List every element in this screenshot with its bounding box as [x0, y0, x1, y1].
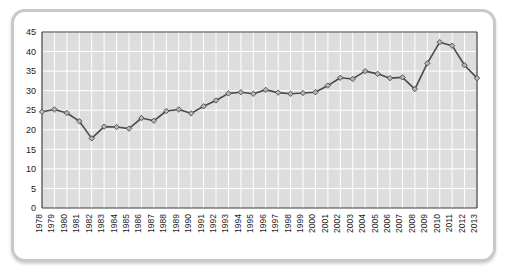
x-tick-label: 1979: [46, 214, 56, 233]
x-tick-label: 2012: [457, 214, 467, 233]
x-tick-label: 1978: [34, 214, 44, 233]
x-tick-label: 2003: [345, 214, 355, 233]
x-tick-label: 1987: [146, 214, 156, 233]
x-tick-label: 1993: [220, 214, 230, 233]
x-tick-label: 1990: [183, 214, 193, 233]
plot-background: [42, 32, 477, 208]
x-tick-label: 1997: [270, 214, 280, 233]
x-tick-label: 2005: [370, 214, 380, 233]
y-tick-label: 45: [26, 27, 36, 37]
x-tick-label: 2001: [320, 214, 330, 233]
x-tick-label: 1986: [133, 214, 143, 233]
x-tick-label: 1995: [245, 214, 255, 233]
y-tick-label: 40: [26, 47, 36, 57]
y-tick-label: 10: [26, 164, 36, 174]
x-tick-label: 1996: [258, 214, 268, 233]
y-tick-label: 30: [26, 86, 36, 96]
chart-svg: 051015202530354045 197819791980198119821…: [0, 0, 511, 279]
x-tick-label: 1980: [59, 214, 69, 233]
x-tick-label: 1981: [71, 214, 81, 233]
y-tick-label: 0: [31, 203, 36, 213]
x-tick-label: 1984: [109, 214, 119, 233]
y-tick-label: 20: [26, 125, 36, 135]
x-tick-label: 2008: [407, 214, 417, 233]
x-tick-label: 1998: [283, 214, 293, 233]
x-tick-label: 1992: [208, 214, 218, 233]
x-tick-label: 2011: [444, 214, 454, 233]
x-tick-label: 2009: [419, 214, 429, 233]
x-tick-label: 1985: [121, 214, 131, 233]
x-tick-label: 1999: [295, 214, 305, 233]
x-tick-label: 1994: [233, 214, 243, 233]
y-tick-label: 25: [26, 105, 36, 115]
x-tick-label: 2013: [469, 214, 479, 233]
y-tick-label: 15: [26, 145, 36, 155]
grid-layer: [42, 32, 477, 208]
line-chart: 051015202530354045 197819791980198119821…: [0, 0, 511, 279]
x-tick-label: 2002: [332, 214, 342, 233]
x-tick-label: 2007: [394, 214, 404, 233]
x-tick-label: 2006: [382, 214, 392, 233]
x-tick-label: 2004: [357, 214, 367, 233]
x-tick-label: 1982: [84, 214, 94, 233]
y-tick-label: 5: [31, 184, 36, 194]
x-tick-label: 1983: [96, 214, 106, 233]
x-axis-tick-labels: 1978197919801981198219831984198519861987…: [34, 214, 479, 233]
x-tick-label: 1991: [196, 214, 206, 233]
x-tick-label: 2000: [307, 214, 317, 233]
x-tick-label: 1988: [158, 214, 168, 233]
y-tick-label: 35: [26, 66, 36, 76]
x-tick-label: 1989: [171, 214, 181, 233]
y-axis-tick-labels: 051015202530354045: [26, 27, 36, 213]
x-tick-label: 2010: [432, 214, 442, 233]
